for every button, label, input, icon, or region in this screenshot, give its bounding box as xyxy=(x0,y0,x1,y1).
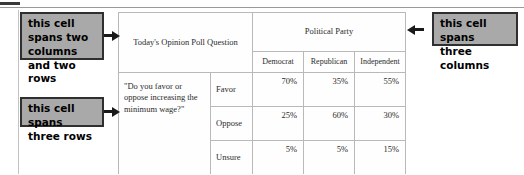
arrow-to-party-header-shaft xyxy=(415,28,424,31)
scan-rule-left xyxy=(18,10,19,174)
table-row-favor: "Do you favor or oppose increasing the m… xyxy=(119,73,406,107)
cell-question-text: "Do you favor or oppose increasing the m… xyxy=(119,73,211,175)
table-row-header-top: Today's Opinion Poll Question Political … xyxy=(119,13,406,52)
cell-political-party-header: Political Party xyxy=(253,13,406,52)
arrow-to-party-header-icon xyxy=(407,25,415,35)
cell-unsure-republican: 5% xyxy=(304,141,355,175)
cell-response-unsure: Unsure xyxy=(211,141,253,175)
cell-response-favor: Favor xyxy=(211,73,253,107)
annotation-three-rows: this cell spans three rows xyxy=(20,97,104,127)
cell-response-oppose: Oppose xyxy=(211,107,253,141)
cell-favor-democrat: 70% xyxy=(253,73,304,107)
annotation-two-columns-two-rows: this cell spans two columns and two rows xyxy=(20,12,104,60)
cell-party-democrat: Democrat xyxy=(253,52,304,73)
arrow-to-question-header-icon xyxy=(112,31,120,41)
scan-mark-top-left xyxy=(0,2,20,5)
cell-unsure-independent: 15% xyxy=(355,141,406,175)
cell-favor-republican: 35% xyxy=(304,73,355,107)
cell-unsure-democrat: 5% xyxy=(253,141,304,175)
cell-oppose-independent: 30% xyxy=(355,107,406,141)
cell-party-independent: Independent xyxy=(355,52,406,73)
cell-favor-independent: 55% xyxy=(355,73,406,107)
cell-oppose-democrat: 25% xyxy=(253,107,304,141)
scan-rule-top xyxy=(0,7,524,8)
opinion-poll-table: Today's Opinion Poll Question Political … xyxy=(118,12,406,174)
cell-party-republican: Republican xyxy=(304,52,355,73)
cell-question-header: Today's Opinion Poll Question xyxy=(119,13,253,73)
annotation-three-columns: this cell spans three columns xyxy=(432,12,518,46)
cell-oppose-republican: 60% xyxy=(304,107,355,141)
arrow-to-question-text-icon xyxy=(112,107,120,117)
